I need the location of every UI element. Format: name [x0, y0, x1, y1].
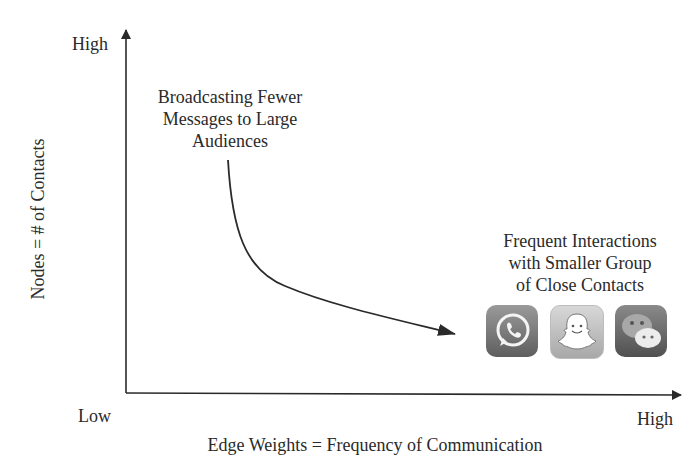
- annotation-line: Messages to Large: [140, 108, 320, 130]
- annotation-line: Broadcasting Fewer: [140, 86, 320, 108]
- whatsapp-icon: [486, 305, 538, 357]
- annotation-line: with Smaller Group: [470, 252, 690, 274]
- wechat-icon: [615, 305, 667, 357]
- annotation-line: Frequent Interactions: [470, 230, 690, 252]
- x-axis-low-label: Low: [78, 405, 111, 427]
- x-axis-title: Edge Weights = Frequency of Communicatio…: [150, 434, 600, 456]
- annotation-frequent-interactions: Frequent Interactions with Smaller Group…: [470, 230, 690, 296]
- snapchat-icon: [550, 305, 604, 359]
- annotation-line: Audiences: [140, 130, 320, 152]
- annotation-line: of Close Contacts: [470, 274, 690, 296]
- y-axis-title: Nodes = # of Contacts: [27, 119, 49, 319]
- y-axis-high-label: High: [72, 33, 108, 55]
- x-axis-high-label: High: [637, 408, 673, 430]
- annotation-broadcasting: Broadcasting Fewer Messages to Large Aud…: [140, 86, 320, 152]
- trend-curve-arrow: [228, 160, 455, 334]
- x-axis-line: [126, 393, 681, 395]
